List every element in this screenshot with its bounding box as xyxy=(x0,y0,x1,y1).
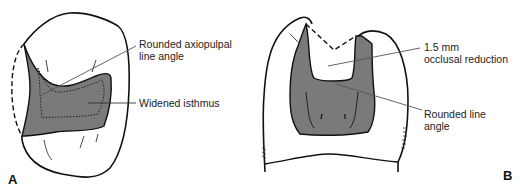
panel-letter-b: B xyxy=(503,168,512,183)
label-occlusal-reduction: 1.5 mm occlusal reduction xyxy=(424,41,508,65)
label-rounded-axiopulpal: Rounded axiopulpal line angle xyxy=(139,38,232,62)
label-line: Rounded axiopulpal xyxy=(139,38,232,50)
label-line: 1.5 mm xyxy=(424,41,508,53)
ridge-stroke xyxy=(44,140,52,160)
preparation-a xyxy=(22,44,111,136)
dental-preparation-diagram xyxy=(0,0,520,189)
panel-letter-a: A xyxy=(8,172,17,187)
label-line: angle xyxy=(424,120,486,132)
label-line: occlusal reduction xyxy=(424,53,508,65)
label-widened-isthmus: Widened isthmus xyxy=(139,97,220,109)
panel-b-tooth xyxy=(262,17,422,172)
label-line: Rounded line xyxy=(424,108,486,120)
ridge-stroke xyxy=(80,136,84,148)
preparation-b xyxy=(290,24,375,135)
label-line: Widened isthmus xyxy=(139,97,220,109)
cervical-line xyxy=(265,154,398,164)
leader-occlusal-reduction xyxy=(328,48,420,66)
label-rounded-line-angle: Rounded line angle xyxy=(424,108,486,132)
pulp-mark xyxy=(321,114,322,119)
ridge-stroke xyxy=(96,134,98,142)
panel-a-tooth xyxy=(12,13,136,177)
ridge-stroke xyxy=(92,60,96,72)
label-line: line angle xyxy=(139,50,232,62)
ridge-stroke xyxy=(290,34,298,42)
dashed-removed-occlusal xyxy=(306,24,356,50)
ridge-stroke xyxy=(46,60,48,72)
dashed-removed-wall-a xyxy=(12,44,24,136)
